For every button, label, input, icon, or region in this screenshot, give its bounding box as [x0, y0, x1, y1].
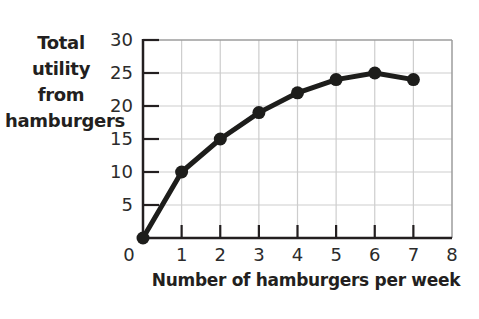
x-tick-label: 5: [321, 245, 351, 265]
x-tick-label: 3: [244, 245, 274, 265]
x-axis-title: Number of hamburgers per week: [146, 270, 466, 290]
chart-figure: Totalutilityfromhamburgers 51015202530 0…: [0, 0, 479, 319]
x-tick-label: 2: [205, 245, 235, 265]
x-tick-label: 0: [114, 245, 144, 265]
x-tick-label: 8: [437, 245, 467, 265]
x-tick-label: 6: [360, 245, 390, 265]
x-tick-label: 1: [167, 245, 197, 265]
x-tick-label: 7: [398, 245, 428, 265]
x-tick-label: 4: [283, 245, 313, 265]
